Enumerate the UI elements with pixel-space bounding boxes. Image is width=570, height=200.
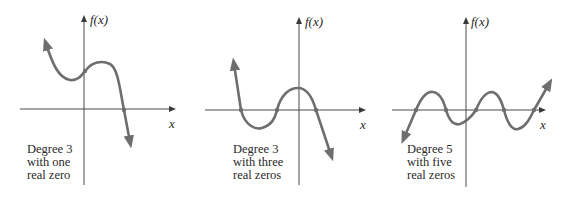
zero-point [532, 108, 536, 112]
zero-point [474, 108, 478, 112]
y-intercept-point [83, 69, 87, 73]
cubic-curve-one-zero [46, 44, 130, 142]
y-axis-arrow-icon [463, 17, 469, 24]
zero-point [239, 108, 243, 112]
x-axis-label: x [540, 117, 546, 133]
zero-point [414, 108, 418, 112]
caption-line-3: real zeros [233, 169, 281, 182]
zero-point [444, 108, 448, 112]
caption-line-3: real zeros [407, 169, 455, 182]
y-axis-arrow-icon [81, 15, 87, 22]
y-axis-label: f(x) [471, 14, 489, 30]
panel-degree3-three-zeros [205, 17, 366, 185]
x-axis-arrow-icon [359, 107, 366, 113]
x-axis-label: x [169, 116, 175, 132]
y-axis-label: f(x) [90, 12, 108, 28]
zero-point [275, 108, 279, 112]
caption-line-3: real zero [27, 169, 70, 182]
x-axis-arrow-icon [539, 107, 546, 113]
polynomial-graphs-figure [0, 0, 570, 200]
zero-point [122, 108, 126, 112]
x-axis-arrow-icon [169, 106, 176, 112]
y-axis-label: f(x) [305, 14, 323, 30]
zero-point [502, 108, 506, 112]
zero-point [314, 108, 318, 112]
y-axis-arrow-icon [296, 17, 302, 24]
x-axis-label: x [360, 117, 366, 133]
